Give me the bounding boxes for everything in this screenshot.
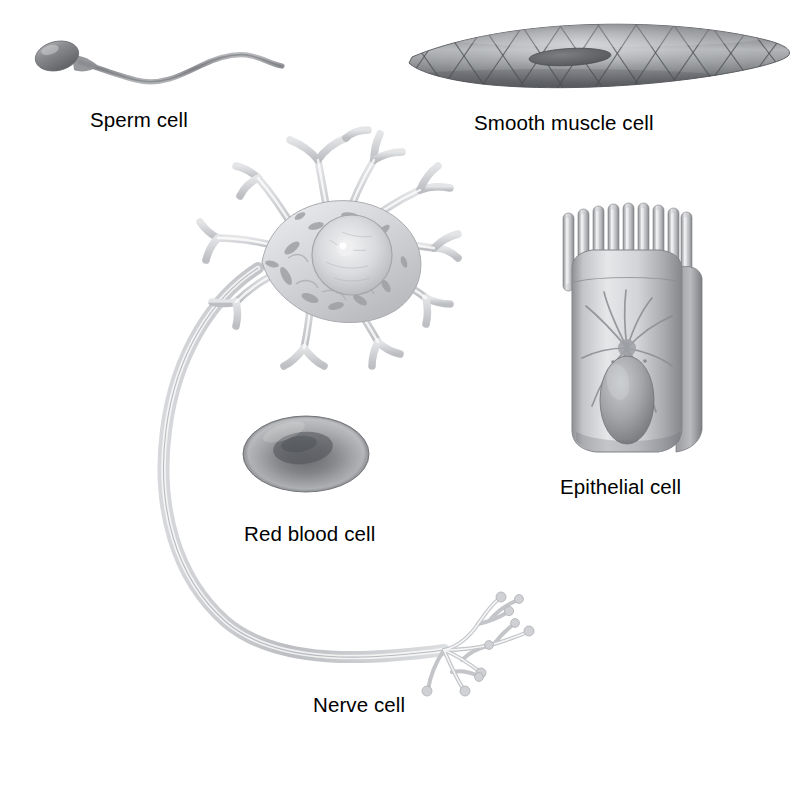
label-smooth-muscle-cell: Smooth muscle cell xyxy=(474,113,654,134)
label-nerve-cell: Nerve cell xyxy=(313,695,405,716)
epithelial-nucleus xyxy=(600,356,654,444)
sperm-cell-illustration xyxy=(32,37,282,82)
label-epithelial-cell: Epithelial cell xyxy=(560,477,681,498)
label-red-blood-cell: Red blood cell xyxy=(244,524,375,545)
nerve-nucleolus-highlight xyxy=(340,243,347,250)
sperm-tail xyxy=(80,55,282,82)
nerve-synaptic-knobs xyxy=(422,592,534,696)
epithelial-centrosome xyxy=(618,339,636,357)
sperm-tail-core xyxy=(80,55,282,82)
nerve-nucleus xyxy=(312,215,392,295)
red-blood-cell-illustration xyxy=(243,416,369,492)
label-sperm-cell: Sperm cell xyxy=(90,110,188,131)
smooth-muscle-cell-illustration xyxy=(380,13,797,96)
epithelial-cell-illustration xyxy=(563,203,702,452)
nerve-cell-illustration xyxy=(164,130,535,696)
cell-types-figure: Sperm cell Smooth muscle cell Nerve cell… xyxy=(0,0,807,792)
